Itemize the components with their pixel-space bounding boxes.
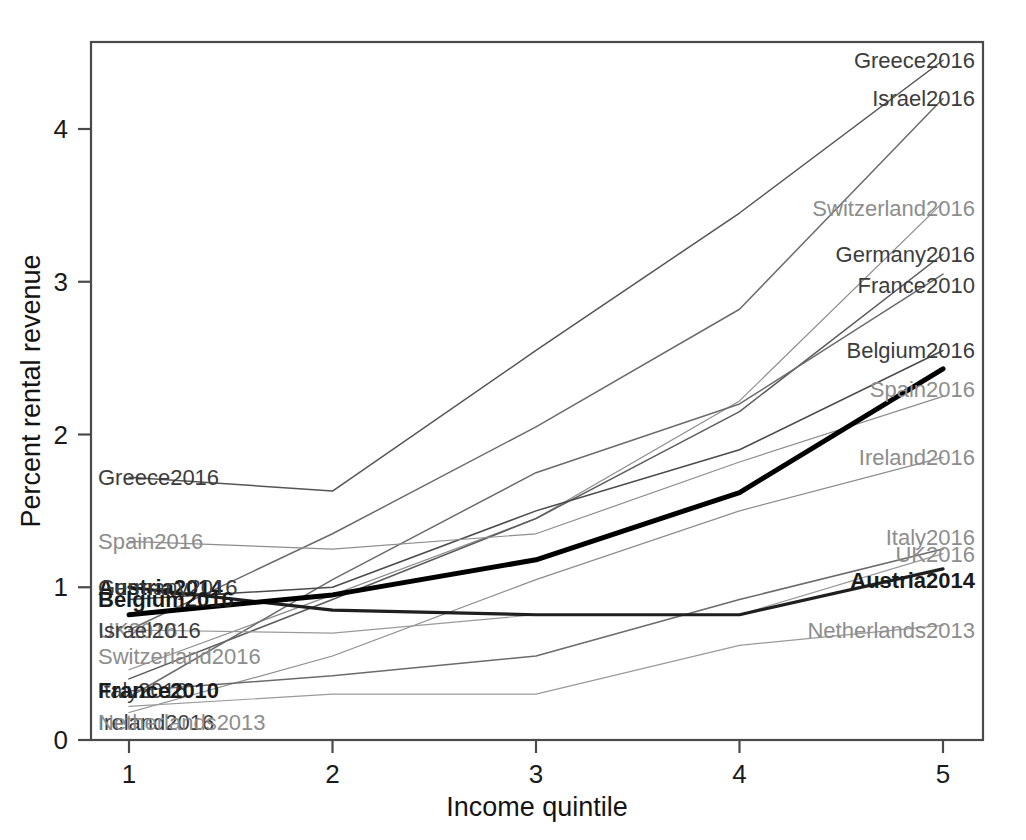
series-endpoint-label: Germany2016 — [836, 242, 975, 267]
series-endpoint-label: Spain2016 — [870, 377, 975, 402]
y-tick-label: 0 — [54, 725, 68, 755]
series-endpoint-label: Austria2014 — [850, 568, 976, 593]
series-line — [129, 369, 943, 615]
series-line — [129, 457, 943, 712]
series-endpoint-label: Switzerland2016 — [98, 644, 261, 669]
x-tick-label: 5 — [936, 759, 950, 789]
series-lines — [129, 60, 943, 712]
series-endpoint-label: Greece2016 — [98, 465, 219, 490]
right-endpoint-labels: Greece2016Israel2016Switzerland2016Germa… — [807, 48, 975, 643]
series-endpoint-label: Greece2016 — [854, 48, 975, 73]
x-axis-title: Income quintile — [446, 792, 628, 822]
x-tick-label: 2 — [325, 759, 339, 789]
chart-figure: 01234 12345 Greece2016Spain2016Austria20… — [0, 0, 1026, 840]
y-axis-ticks: 01234 — [54, 114, 91, 755]
y-tick-label: 1 — [54, 572, 68, 602]
series-endpoint-label: Ireland2016 — [859, 445, 975, 470]
series-endpoint-label: Spain2016 — [98, 529, 203, 554]
y-tick-label: 2 — [54, 420, 68, 450]
x-tick-label: 1 — [122, 759, 136, 789]
x-tick-label: 3 — [529, 759, 543, 789]
y-tick-label: 3 — [54, 267, 68, 297]
x-tick-label: 4 — [732, 759, 746, 789]
x-axis-ticks: 12345 — [122, 740, 950, 789]
series-endpoint-label: Switzerland2016 — [812, 196, 975, 221]
series-endpoint-label: UK2016 — [895, 542, 975, 567]
series-endpoint-label: Netherlands2013 — [807, 618, 975, 643]
series-endpoint-label: Israel2016 — [98, 618, 201, 643]
series-endpoint-label: France2010 — [98, 678, 219, 703]
series-endpoint-label: Belgium2016 — [847, 338, 975, 363]
y-axis-title: Percent rental revenue — [16, 254, 46, 527]
line-chart-svg: 01234 12345 Greece2016Spain2016Austria20… — [0, 0, 1026, 840]
series-line — [129, 98, 943, 630]
series-endpoint-label: Israel2016 — [872, 86, 975, 111]
series-endpoint-label: Netherlands2013 — [98, 710, 266, 735]
series-endpoint-label: France2010 — [858, 273, 975, 298]
series-endpoint-label: Belgium2016 — [98, 587, 234, 612]
y-tick-label: 4 — [54, 114, 68, 144]
